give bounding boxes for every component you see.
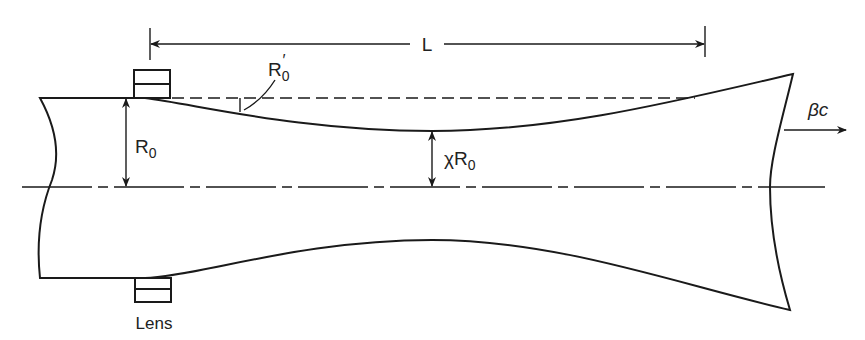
waist-radius-label: χR0 — [444, 148, 476, 173]
slope-label: R0′ — [268, 52, 290, 84]
lens-bottom — [135, 278, 171, 302]
beam-envelope — [39, 74, 794, 310]
lens-label: Lens — [136, 314, 173, 333]
velocity-label: βc — [807, 99, 829, 120]
lens-top — [134, 70, 170, 98]
beam-envelope-diagram: L R0 R0′ χR0 βc Lens — [0, 0, 865, 340]
initial-radius-label: R0 — [135, 136, 157, 161]
length-label: L — [422, 34, 433, 55]
slope-leader — [244, 80, 275, 110]
